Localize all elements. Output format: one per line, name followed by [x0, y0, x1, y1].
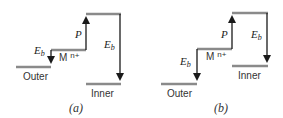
- energy-level-diagram: Eb Mn+ P Eb Outer Inner (a) Eb Mn+ P Eb …: [0, 0, 283, 118]
- eb-label-b2: Eb: [250, 28, 262, 42]
- caption-a: (a): [69, 101, 83, 115]
- eb-label-b1: Eb: [179, 55, 191, 69]
- caption-b: (b): [214, 101, 228, 115]
- outer-label-a: Outer: [23, 71, 49, 82]
- p-label-b: P: [220, 28, 228, 40]
- outer-label-b: Outer: [167, 88, 193, 99]
- ion-label-a: Mn+: [59, 51, 80, 63]
- p-label-a: P: [74, 28, 82, 40]
- eb-label-a1: Eb: [33, 44, 45, 58]
- eb-label-a2: Eb: [103, 38, 115, 52]
- panel-a: Eb Mn+ P Eb Outer Inner (a): [16, 14, 121, 115]
- ion-label-b: Mn+: [206, 50, 227, 62]
- inner-label-b: Inner: [238, 70, 261, 81]
- inner-label-a: Inner: [91, 88, 114, 99]
- panel-b: Eb Mn+ P Eb Outer Inner (b): [161, 13, 268, 115]
